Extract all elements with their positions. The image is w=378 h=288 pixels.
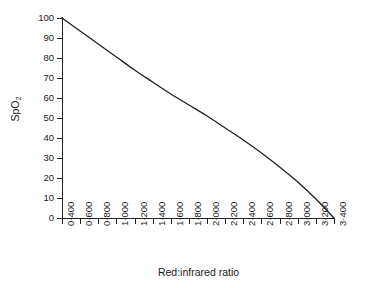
x-tick-label: 0·800 (102, 202, 112, 226)
x-axis-title: Red:infrared ratio (62, 266, 335, 278)
y-tick-label: 90 (26, 33, 54, 43)
y-tick-label: 60 (26, 93, 54, 103)
x-tick (135, 219, 136, 224)
y-tick-label-wrap: 60 (22, 93, 54, 103)
y-tick-label: 10 (26, 193, 54, 203)
x-tick-label: 3·200 (320, 202, 330, 226)
y-tick-label-wrap: 100 (22, 13, 54, 23)
y-tick (57, 158, 62, 159)
x-tick (189, 219, 190, 224)
y-tick-label: 30 (26, 153, 54, 163)
y-tick-label-wrap: 10 (22, 193, 54, 203)
x-tick (243, 219, 244, 224)
x-tick-label: 0·400 (66, 202, 76, 226)
y-tick (57, 138, 62, 139)
y-tick-label: 0 (26, 213, 54, 223)
y-tick-label-wrap: 50 (22, 113, 54, 123)
y-tick-label-wrap: 70 (22, 73, 54, 83)
x-tick (98, 219, 99, 224)
x-tick-label: 3·400 (338, 202, 348, 226)
y-tick (57, 18, 62, 19)
y-tick-label-wrap: 80 (22, 53, 54, 63)
y-tick-label: 50 (26, 113, 54, 123)
y-tick-label: 70 (26, 73, 54, 83)
x-tick-label: 2·000 (211, 202, 221, 226)
y-tick-label: 40 (26, 133, 54, 143)
x-tick-label: 1·600 (175, 202, 185, 226)
y-tick (57, 58, 62, 59)
y-tick-label: 80 (26, 53, 54, 63)
x-tick (225, 219, 226, 224)
x-tick-label: 2·200 (229, 202, 239, 226)
x-tick (298, 219, 299, 224)
y-tick-label-wrap: 40 (22, 133, 54, 143)
y-axis-title: SpO2 (10, 79, 22, 139)
x-tick (153, 219, 154, 224)
x-tick (280, 219, 281, 224)
y-tick (57, 78, 62, 79)
x-tick-label: 3·000 (302, 202, 312, 226)
x-tick-label: 1·200 (139, 202, 149, 226)
x-tick-label: 2·600 (265, 202, 275, 226)
x-tick (261, 219, 262, 224)
y-tick (57, 118, 62, 119)
x-tick (62, 219, 63, 224)
x-tick (171, 219, 172, 224)
x-tick (116, 219, 117, 224)
series-line-spo2 (62, 18, 334, 218)
y-tick-label: 20 (26, 173, 54, 183)
curve-plot-area (0, 0, 378, 288)
x-tick (80, 219, 81, 224)
y-tick-label: 100 (26, 13, 54, 23)
x-tick-label: 2·800 (284, 202, 294, 226)
y-axis-line (62, 17, 63, 219)
x-tick-label: 1·000 (120, 202, 130, 226)
y-tick-label-wrap: 0 (22, 213, 54, 223)
chart-figure: 1009080706050403020100 0·4000·6000·8001·… (0, 0, 378, 288)
y-tick-label-wrap: 30 (22, 153, 54, 163)
y-tick-label-wrap: 20 (22, 173, 54, 183)
x-tick-label: 2·400 (247, 202, 257, 226)
x-tick (207, 219, 208, 224)
x-tick (334, 219, 335, 224)
y-tick (57, 178, 62, 179)
y-tick-label-wrap: 90 (22, 33, 54, 43)
x-tick-label: 0·600 (84, 202, 94, 226)
x-tick (316, 219, 317, 224)
y-tick (57, 38, 62, 39)
y-tick (57, 98, 62, 99)
x-tick-label: 1·400 (157, 202, 167, 226)
x-tick-label: 1·800 (193, 202, 203, 226)
y-tick (57, 198, 62, 199)
